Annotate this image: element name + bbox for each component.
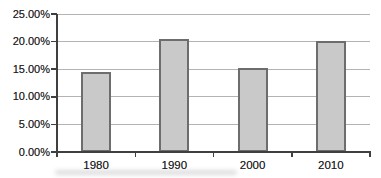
bar-1990 bbox=[159, 39, 189, 152]
x-axis-category-label: 2010 bbox=[301, 159, 361, 172]
x-axis-category-label: 2000 bbox=[223, 159, 283, 172]
x-axis-category-label: 1990 bbox=[144, 159, 204, 172]
x-axis-line bbox=[57, 151, 371, 153]
bar-1980 bbox=[81, 72, 111, 152]
x-axis-tick bbox=[135, 152, 137, 157]
bar-2000 bbox=[238, 68, 268, 152]
y-axis-tick-label: 10.00% bbox=[0, 90, 50, 103]
y-axis-line bbox=[56, 14, 58, 157]
x-axis-tick bbox=[213, 152, 215, 157]
y-axis-tick-label: 0.00% bbox=[0, 146, 50, 159]
y-axis-tick-label: 20.00% bbox=[0, 35, 50, 48]
x-axis-category-label: 1980 bbox=[66, 159, 126, 172]
gridline-25 bbox=[57, 14, 370, 15]
x-axis-tick bbox=[369, 152, 371, 157]
x-axis-tick bbox=[291, 152, 293, 157]
bar-2010 bbox=[316, 41, 346, 152]
y-axis-tick-label: 15.00% bbox=[0, 63, 50, 76]
bar-chart: 0.00%5.00%10.00%15.00%20.00%25.00%198019… bbox=[0, 0, 381, 178]
y-axis-tick-label: 5.00% bbox=[0, 118, 50, 131]
y-axis-tick-label: 25.00% bbox=[0, 8, 50, 21]
